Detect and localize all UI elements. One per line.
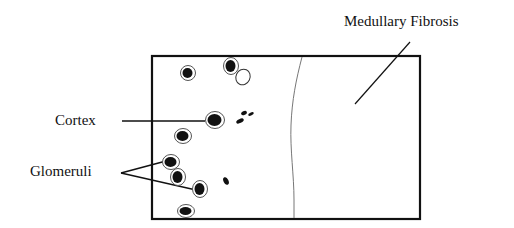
small-dark-body <box>222 176 230 185</box>
cortex-label: Cortex <box>55 113 96 128</box>
small-bodies-group <box>222 110 254 186</box>
corticomedullary-boundary <box>291 57 302 218</box>
glomerulus <box>208 114 222 126</box>
small-dark-body <box>236 117 245 124</box>
medullary-fibrosis-leader-line <box>355 42 410 104</box>
small-dark-body <box>240 110 247 116</box>
glomerulus <box>165 157 177 167</box>
glomerulus <box>183 68 193 78</box>
glomeruli-label: Glomeruli <box>30 164 92 179</box>
glomerulus <box>180 207 192 215</box>
glomerulus <box>177 131 189 141</box>
glomeruli-group <box>163 58 239 218</box>
glomerulus <box>226 60 236 72</box>
small-dark-body <box>248 111 255 116</box>
medullary-fibrosis-label: Medullary Fibrosis <box>344 14 459 29</box>
kidney-section-outline <box>152 56 420 219</box>
glomerulus <box>195 183 205 195</box>
glomerulus <box>173 171 183 183</box>
glomeruli-leader-line-upper <box>121 161 166 173</box>
